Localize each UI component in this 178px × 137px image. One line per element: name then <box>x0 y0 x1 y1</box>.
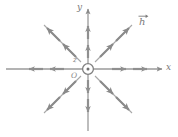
origin-label: O <box>71 72 77 80</box>
ray-southwest <box>44 76 81 113</box>
vector-field-label: h <box>139 17 145 27</box>
field-arrow <box>100 81 113 94</box>
circle-dot-icon <box>83 64 94 75</box>
field-arrow <box>100 44 113 57</box>
field-arrow <box>63 81 76 94</box>
z-axis-label: z <box>73 56 77 64</box>
vector-field-figure: y x z O h <box>0 0 178 137</box>
field-arrow <box>47 97 60 110</box>
vector-label-text: h <box>139 16 145 27</box>
x-axis-label: x <box>166 63 171 72</box>
z-axis-dot <box>87 68 90 71</box>
field-arrow <box>116 97 129 110</box>
vector-field-canvas <box>0 0 178 137</box>
field-arrow <box>47 28 60 41</box>
y-axis-label: y <box>77 3 82 12</box>
field-arrow <box>116 28 129 41</box>
ray-southeast <box>95 76 132 113</box>
ray-northeast <box>95 25 132 62</box>
